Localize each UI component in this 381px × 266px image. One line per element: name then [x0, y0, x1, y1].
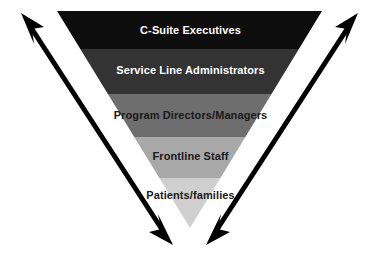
diagram-canvas — [0, 0, 381, 266]
inverted-pyramid-diagram: C-Suite Executives Service Line Administ… — [0, 0, 381, 266]
pyramid-band-c-suite-executives — [0, 11, 381, 49]
pyramid-band-frontline-staff — [0, 137, 381, 178]
pyramid-bands — [0, 11, 381, 228]
pyramid-band-patients-families — [0, 178, 381, 228]
pyramid-band-program-directors-managers — [0, 94, 381, 137]
